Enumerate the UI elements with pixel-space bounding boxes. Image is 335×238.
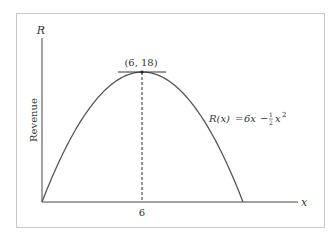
vertex-label: (6, 18) (124, 57, 157, 68)
function-minus: − (260, 113, 268, 124)
function-var: x (275, 113, 281, 124)
function-label: R(x) = 6x − 1 2 x 2 (208, 111, 286, 126)
vertex-point (141, 71, 144, 74)
revenue-chart: R x Revenue (6, 18) 6 R(x) = 6x − 1 2 x … (0, 0, 335, 238)
function-lhs: R(x) (208, 113, 230, 124)
y-axis-title: Revenue (28, 98, 39, 142)
function-exponent: 2 (282, 111, 286, 119)
fraction-denominator: 2 (269, 119, 273, 126)
x-tick-6: 6 (139, 207, 145, 218)
x-axis-label: x (301, 196, 308, 209)
fraction-numerator: 1 (269, 111, 273, 118)
function-equals: = (235, 113, 243, 124)
function-term1: 6x (244, 113, 256, 124)
y-axis-label: R (36, 24, 45, 37)
